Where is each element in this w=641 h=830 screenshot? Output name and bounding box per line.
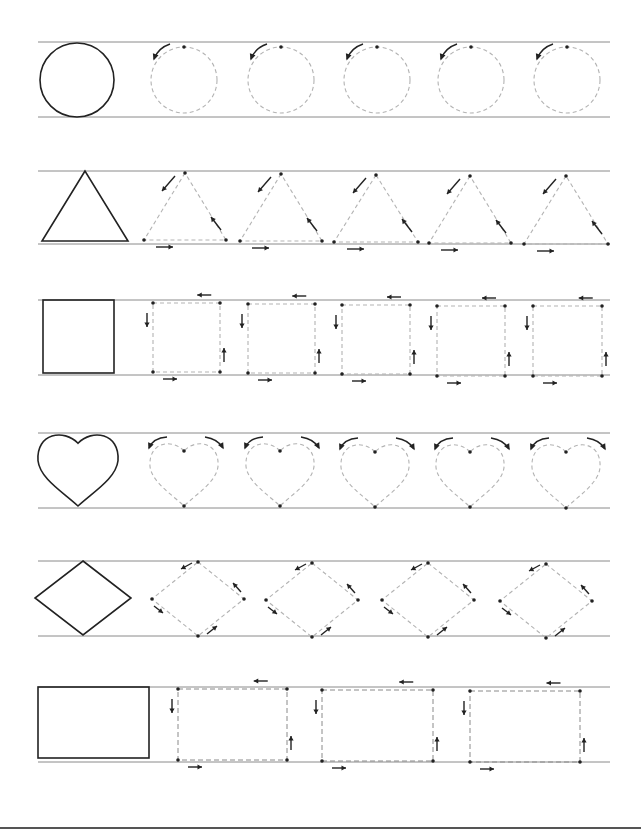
start-dot xyxy=(544,636,548,640)
start-dot xyxy=(590,599,594,603)
direction-arrow-icon xyxy=(144,313,149,327)
start-dot xyxy=(375,45,379,49)
trace-rectangle[interactable] xyxy=(461,680,586,771)
start-dot xyxy=(503,374,507,378)
trace-square[interactable] xyxy=(333,294,416,383)
trace-square[interactable] xyxy=(239,293,321,382)
trace-diamond[interactable] xyxy=(264,561,360,639)
trace-diamond[interactable] xyxy=(150,560,246,638)
start-dot xyxy=(238,239,242,243)
curved-arrow-icon xyxy=(301,437,320,449)
trace-heart[interactable] xyxy=(244,437,320,508)
trace-square[interactable] xyxy=(428,295,511,385)
trace-diamond[interactable] xyxy=(498,562,594,640)
model-heart xyxy=(38,435,118,506)
trace-heart[interactable] xyxy=(148,437,224,508)
trace-rectangle[interactable] xyxy=(169,678,293,769)
direction-arrow-icon xyxy=(197,292,211,297)
start-dot xyxy=(426,561,430,565)
direction-arrow-icon xyxy=(333,315,338,329)
start-dot xyxy=(431,688,435,692)
direction-arrow-icon xyxy=(428,316,433,330)
direction-arrow-icon xyxy=(603,352,608,366)
direction-arrow-icon xyxy=(537,248,554,253)
start-dot xyxy=(320,239,324,243)
trace-square[interactable] xyxy=(144,292,226,381)
start-dot xyxy=(373,505,377,509)
direction-arrow-icon xyxy=(581,738,586,752)
model-triangle xyxy=(42,171,128,241)
start-dot xyxy=(544,562,548,566)
start-dot xyxy=(150,597,154,601)
trace-circle[interactable] xyxy=(534,44,600,113)
start-dot xyxy=(320,688,324,692)
direction-arrow-icon xyxy=(353,178,366,193)
curved-arrow-icon xyxy=(587,438,606,450)
trace-triangle[interactable] xyxy=(427,174,513,252)
start-dot xyxy=(564,174,568,178)
start-dot xyxy=(310,561,314,565)
direction-arrow-icon xyxy=(313,700,318,714)
direction-arrow-icon xyxy=(258,377,272,382)
direction-arrow-icon xyxy=(292,293,306,298)
trace-circle[interactable] xyxy=(438,44,504,113)
start-dot xyxy=(600,374,604,378)
start-dot xyxy=(373,450,377,454)
trace-circle[interactable] xyxy=(248,44,314,113)
row-diamond xyxy=(35,560,610,640)
start-dot xyxy=(151,301,155,305)
shape-tracing-worksheet xyxy=(0,0,641,830)
trace-heart[interactable] xyxy=(339,438,415,509)
row-heart xyxy=(38,433,610,510)
direction-arrow-icon xyxy=(543,179,556,194)
trace-triangle[interactable] xyxy=(238,172,324,250)
trace-heart[interactable] xyxy=(530,438,606,510)
trace-square[interactable] xyxy=(524,295,608,385)
start-dot xyxy=(531,304,535,308)
model-diamond xyxy=(35,561,131,635)
start-dot xyxy=(182,449,186,453)
start-dot xyxy=(176,758,180,762)
direction-arrow-icon xyxy=(447,179,460,194)
direction-arrow-icon xyxy=(316,349,321,363)
direction-arrow-icon xyxy=(592,221,602,234)
curved-arrow-icon xyxy=(153,44,170,60)
trace-heart[interactable] xyxy=(434,438,510,509)
trace-diamond[interactable] xyxy=(380,561,476,639)
start-dot xyxy=(176,687,180,691)
start-dot xyxy=(503,304,507,308)
start-dot xyxy=(435,304,439,308)
direction-arrow-icon xyxy=(332,765,346,770)
start-dot xyxy=(279,45,283,49)
start-dot xyxy=(182,45,186,49)
trace-rectangle[interactable] xyxy=(313,679,439,770)
direction-arrow-icon xyxy=(254,678,268,683)
start-dot xyxy=(332,240,336,244)
trace-circle[interactable] xyxy=(344,44,410,113)
start-dot xyxy=(264,598,268,602)
start-dot xyxy=(340,303,344,307)
start-dot xyxy=(196,634,200,638)
start-dot xyxy=(246,302,250,306)
curved-arrow-icon xyxy=(491,438,510,450)
direction-arrow-icon xyxy=(524,316,529,330)
trace-triangle[interactable] xyxy=(332,173,420,251)
trace-circle[interactable] xyxy=(151,44,217,113)
direction-arrow-icon xyxy=(506,352,511,366)
start-dot xyxy=(242,597,246,601)
direction-arrow-icon xyxy=(581,585,589,594)
row-square xyxy=(38,292,610,385)
direction-arrow-icon xyxy=(207,626,217,634)
start-dot xyxy=(218,301,222,305)
start-dot xyxy=(142,238,146,242)
trace-triangle[interactable] xyxy=(142,171,228,249)
start-dot xyxy=(498,599,502,603)
model-square xyxy=(43,300,114,373)
direction-arrow-icon xyxy=(555,628,565,636)
trace-triangle[interactable] xyxy=(522,174,610,253)
start-dot xyxy=(182,504,186,508)
direction-arrow-icon xyxy=(321,627,331,635)
start-dot xyxy=(285,758,289,762)
direction-arrow-icon xyxy=(352,378,366,383)
start-dot xyxy=(310,635,314,639)
